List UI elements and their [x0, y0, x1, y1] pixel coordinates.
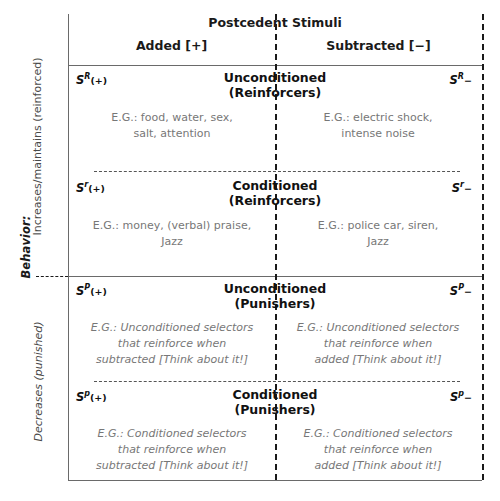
- band-title-line2: (Reinforcers): [68, 193, 482, 208]
- example-unconditioned-punisher-subtracted: E.G.: Unconditioned selectors that reinf…: [281, 320, 475, 368]
- example-unconditioned-reinforcer-subtracted: E.G.: electric shock, intense noise: [281, 110, 475, 142]
- postcedent-stimuli-title: Postcedent Stimuli: [68, 15, 482, 30]
- band-title-unconditioned-reinforcers: Unconditioned (Reinforcers): [68, 70, 482, 100]
- example-unconditioned-punisher-added: E.G.: Unconditioned selectors that reinf…: [74, 320, 270, 368]
- band-title-unconditioned-punishers: Unconditioned (Punishers): [68, 281, 482, 311]
- column-header-subtracted: Subtracted [−]: [275, 38, 482, 53]
- band-title-line2: (Punishers): [68, 296, 482, 311]
- table-right-dashed-border: [482, 14, 484, 480]
- band-title-line2: (Punishers): [68, 402, 482, 417]
- band-title-line2: (Reinforcers): [68, 85, 482, 100]
- band-title-line1: Conditioned: [68, 178, 482, 193]
- column-header-added: Added [+]: [68, 38, 275, 53]
- bottom-rule: [68, 480, 482, 481]
- punisher-row-divider: [94, 381, 460, 382]
- band-title-conditioned-reinforcers: Conditioned (Reinforcers): [68, 178, 482, 208]
- example-conditioned-punisher-subtracted: E.G.: Conditioned selectors that reinfor…: [281, 426, 475, 474]
- band-title-line1: Unconditioned: [68, 281, 482, 296]
- axis-label-punished: Decreases (punished): [32, 292, 45, 472]
- band-title-conditioned-punishers: Conditioned (Punishers): [68, 387, 482, 417]
- example-conditioned-reinforcer-subtracted: E.G.: police car, siren, Jazz: [281, 218, 475, 250]
- axis-label-reinforced: Increases/maintains (reinforced): [31, 32, 44, 262]
- left-gutter-divider: [36, 276, 68, 277]
- band-title-line1: Unconditioned: [68, 70, 482, 85]
- band-title-line1: Conditioned: [68, 387, 482, 402]
- contingency-table-diagram: Behavior: Increases/maintains (reinforce…: [0, 0, 500, 501]
- example-unconditioned-reinforcer-added: E.G.: food, water, sex, salt, attention: [74, 110, 270, 142]
- example-conditioned-punisher-added: E.G.: Conditioned selectors that reinfor…: [74, 426, 270, 474]
- example-conditioned-reinforcer-added: E.G.: money, (verbal) praise, Jazz: [74, 218, 270, 250]
- reinforcer-row-divider: [94, 171, 460, 172]
- table-grid: Postcedent Stimuli Added [+] Subtracted …: [68, 14, 482, 480]
